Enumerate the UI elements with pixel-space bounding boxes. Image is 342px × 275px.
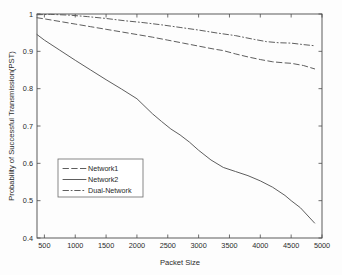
- y-tick-label: 0.4: [23, 234, 33, 243]
- y-tick-label: 0.5: [23, 196, 33, 205]
- y-tick-label: 1: [29, 10, 33, 19]
- legend-item-label: Dual-Network: [88, 186, 132, 195]
- x-tick-label: 3500: [221, 241, 237, 250]
- line-chart: 500100015002000250030003500400045005000 …: [0, 0, 342, 275]
- chart-background: [0, 0, 342, 275]
- x-axis-title: Packet Size: [160, 258, 200, 267]
- y-tick-label: 0.7: [23, 122, 33, 131]
- y-tick-label: 0.6: [23, 159, 33, 168]
- figure-canvas: 500100015002000250030003500400045005000 …: [0, 0, 342, 275]
- x-tick-label: 4500: [283, 241, 299, 250]
- y-tick-label: 0.8: [23, 84, 33, 93]
- x-tick-label: 500: [38, 241, 50, 250]
- y-axis-title: Probability of Successful Transmission(P…: [7, 51, 16, 201]
- legend-item-label: Network2: [88, 175, 118, 184]
- x-tick-label: 2000: [129, 241, 145, 250]
- chart-legend: Network1Network2Dual-Network: [58, 159, 143, 197]
- x-tick-label: 1000: [67, 241, 83, 250]
- legend-item-label: Network1: [88, 164, 118, 173]
- x-tick-label: 2500: [160, 241, 176, 250]
- x-tick-label: 5000: [314, 241, 330, 250]
- x-tick-label: 3000: [191, 241, 207, 250]
- y-tick-label: 0.9: [23, 47, 33, 56]
- x-tick-label: 1500: [98, 241, 114, 250]
- x-tick-label: 4000: [252, 241, 268, 250]
